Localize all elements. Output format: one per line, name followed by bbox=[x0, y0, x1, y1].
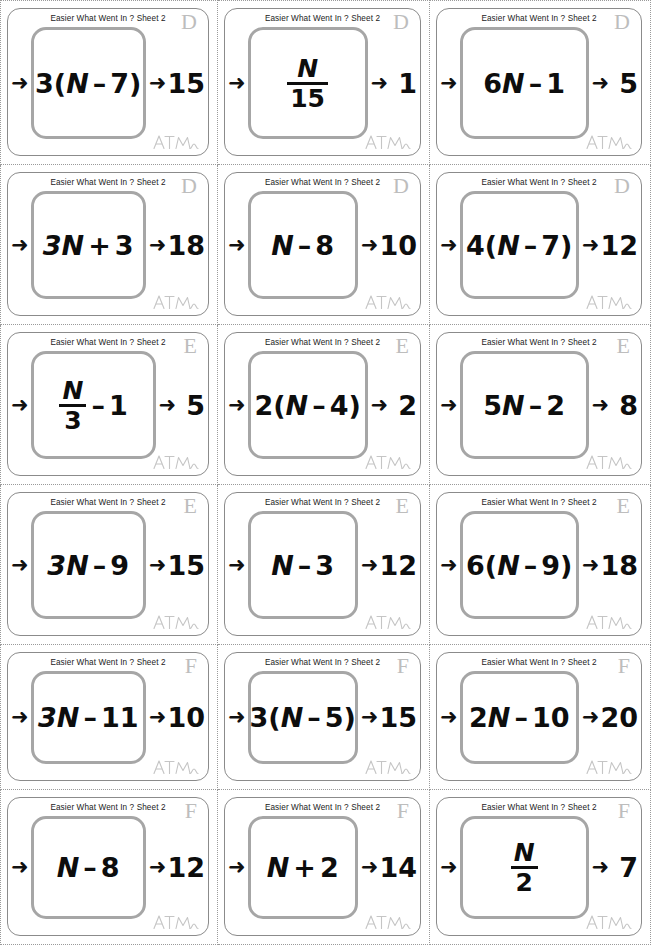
output-value: 15 bbox=[379, 702, 420, 733]
expression-variable: N bbox=[57, 702, 80, 733]
expression-term: 8 bbox=[315, 230, 334, 261]
expression-variable: N bbox=[286, 390, 309, 421]
function-machine-box[interactable]: 6(N–9) bbox=[460, 511, 579, 619]
grid-cell: Easier What Went In ? Sheet 2E➜N–3➜12 bbox=[218, 485, 430, 645]
output-value: 12 bbox=[379, 550, 420, 581]
fraction-denominator: 3 bbox=[61, 407, 84, 433]
output-arrow-icon: ➜ bbox=[149, 555, 167, 576]
atm-logo bbox=[586, 758, 632, 775]
function-machine-box[interactable]: N+2 bbox=[248, 816, 358, 919]
atm-logo bbox=[153, 913, 199, 930]
function-machine-card[interactable]: Easier What Went In ? Sheet 2D➜3N+3➜18 bbox=[7, 172, 209, 316]
grid-cell: Easier What Went In ? Sheet 2E➜2(N–4)➜2 bbox=[218, 325, 430, 485]
input-arrow-icon: ➜ bbox=[440, 73, 458, 94]
function-machine-box[interactable]: 3N+3 bbox=[31, 191, 146, 299]
output-value: 14 bbox=[379, 852, 420, 883]
expression-operator: + bbox=[88, 230, 111, 261]
function-expression: 3N–9 bbox=[47, 550, 129, 581]
expression-term: 11 bbox=[101, 702, 139, 733]
output-arrow-icon: ➜ bbox=[582, 707, 600, 728]
function-machine-box[interactable]: 5N–2 bbox=[460, 351, 589, 459]
grid-cell: Easier What Went In ? Sheet 2F➜2N–10➜20 bbox=[430, 645, 651, 790]
expression-operator: – bbox=[524, 550, 538, 581]
function-expression: N+2 bbox=[267, 852, 339, 883]
function-machine-card[interactable]: Easier What Went In ? Sheet 2F➜2N–10➜20 bbox=[436, 652, 642, 781]
expression-term: 4) bbox=[330, 390, 361, 421]
function-expression: 3(N–7) bbox=[35, 68, 141, 99]
output-value: 5 bbox=[615, 68, 641, 99]
card-header-title: Easier What Went In ? Sheet 2 bbox=[437, 498, 641, 507]
atm-logo bbox=[365, 133, 411, 150]
function-machine-card[interactable]: Easier What Went In ? Sheet 2F➜N+2➜14 bbox=[224, 797, 421, 936]
input-arrow-icon: ➜ bbox=[440, 707, 458, 728]
function-machine-box[interactable]: N2 bbox=[460, 816, 589, 919]
function-machine-box[interactable]: N–8 bbox=[248, 191, 358, 299]
input-arrow-icon: ➜ bbox=[228, 73, 246, 94]
function-machine-box[interactable]: 2N–10 bbox=[460, 671, 579, 764]
function-machine-card[interactable]: Easier What Went In ? Sheet 2E➜6(N–9)➜18 bbox=[436, 492, 642, 636]
expression-variable: N bbox=[267, 852, 290, 883]
function-machine-card[interactable]: Easier What Went In ? Sheet 2D➜4(N–7)➜12 bbox=[436, 172, 642, 316]
expression-operator: – bbox=[298, 230, 312, 261]
atm-logo bbox=[586, 913, 632, 930]
input-arrow-icon: ➜ bbox=[228, 857, 246, 878]
function-machine-box[interactable]: N15 bbox=[248, 27, 368, 139]
function-machine-card[interactable]: Easier What Went In ? Sheet 2D➜6N–1➜5 bbox=[436, 8, 642, 156]
input-arrow-icon: ➜ bbox=[440, 235, 458, 256]
input-arrow-icon: ➜ bbox=[228, 235, 246, 256]
function-machine-card[interactable]: Easier What Went In ? Sheet 2E➜3N–9➜15 bbox=[7, 492, 209, 636]
function-machine-card[interactable]: Easier What Went In ? Sheet 2F➜N2➜7 bbox=[436, 797, 642, 936]
fraction-denominator: 2 bbox=[512, 869, 535, 895]
function-machine-card[interactable]: Easier What Went In ? Sheet 2F➜3N–11➜10 bbox=[7, 652, 209, 781]
machine-row: ➜3N+3➜18 bbox=[8, 189, 208, 301]
expression-term: 9) bbox=[541, 550, 572, 581]
function-machine-card[interactable]: Easier What Went In ? Sheet 2F➜N–8➜12 bbox=[7, 797, 209, 936]
card-header-title: Easier What Went In ? Sheet 2 bbox=[8, 803, 208, 812]
expression-term: 1 bbox=[546, 68, 565, 99]
input-arrow-icon: ➜ bbox=[228, 555, 246, 576]
function-machine-box[interactable]: 2(N–4) bbox=[248, 351, 368, 459]
input-arrow-icon: ➜ bbox=[11, 555, 29, 576]
function-machine-box[interactable]: N–3 bbox=[248, 511, 358, 619]
function-machine-card[interactable]: Easier What Went In ? Sheet 2D➜3(N–7)➜15 bbox=[7, 8, 209, 156]
function-machine-box[interactable]: N3–1 bbox=[31, 351, 156, 459]
fraction: N2 bbox=[511, 840, 538, 895]
expression-term: 3 bbox=[115, 230, 134, 261]
output-arrow-icon: ➜ bbox=[582, 555, 600, 576]
card-header-title: Easier What Went In ? Sheet 2 bbox=[225, 14, 420, 23]
function-machine-box[interactable]: 4(N–7) bbox=[460, 191, 579, 299]
function-machine-box[interactable]: 3N–11 bbox=[31, 671, 146, 764]
function-machine-box[interactable]: 3(N–7) bbox=[31, 27, 146, 139]
function-machine-box[interactable]: 3(N–5) bbox=[248, 671, 358, 764]
function-machine-box[interactable]: N–8 bbox=[31, 816, 146, 919]
function-machine-card[interactable]: Easier What Went In ? Sheet 2E➜5N–2➜8 bbox=[436, 332, 642, 476]
expression-term: 8 bbox=[101, 852, 120, 883]
function-machine-card[interactable]: Easier What Went In ? Sheet 2E➜N3–1➜5 bbox=[7, 332, 209, 476]
machine-row: ➜2(N–4)➜2 bbox=[225, 349, 420, 461]
function-machine-box[interactable]: 6N–1 bbox=[460, 27, 589, 139]
card-header-title: Easier What Went In ? Sheet 2 bbox=[8, 338, 208, 347]
function-machine-card[interactable]: Easier What Went In ? Sheet 2E➜2(N–4)➜2 bbox=[224, 332, 421, 476]
atm-logo bbox=[586, 293, 632, 310]
expression-operator: – bbox=[93, 68, 107, 99]
card-header-title: Easier What Went In ? Sheet 2 bbox=[225, 178, 420, 187]
function-machine-card[interactable]: Easier What Went In ? Sheet 2E➜N–3➜12 bbox=[224, 492, 421, 636]
output-value: 8 bbox=[615, 390, 641, 421]
function-expression: 3N–11 bbox=[38, 702, 138, 733]
input-arrow-icon: ➜ bbox=[11, 73, 29, 94]
machine-row: ➜5N–2➜8 bbox=[437, 349, 641, 461]
output-arrow-icon: ➜ bbox=[361, 857, 379, 878]
grid-cell: Easier What Went In ? Sheet 2F➜N–8➜12 bbox=[0, 790, 218, 945]
output-arrow-icon: ➜ bbox=[592, 395, 610, 416]
function-machine-card[interactable]: Easier What Went In ? Sheet 2D➜N15➜1 bbox=[224, 8, 421, 156]
output-arrow-icon: ➜ bbox=[149, 857, 167, 878]
function-machine-card[interactable]: Easier What Went In ? Sheet 2F➜3(N–5)➜15 bbox=[224, 652, 421, 781]
function-machine-box[interactable]: 3N–9 bbox=[31, 511, 146, 619]
expression-term: 3( bbox=[35, 68, 66, 99]
machine-row: ➜2N–10➜20 bbox=[437, 669, 641, 766]
expression-term: 7) bbox=[541, 230, 572, 261]
function-machine-card[interactable]: Easier What Went In ? Sheet 2D➜N–8➜10 bbox=[224, 172, 421, 316]
expression-term: 2 bbox=[546, 390, 565, 421]
machine-row: ➜3N–9➜15 bbox=[8, 509, 208, 621]
expression-operator: – bbox=[529, 390, 543, 421]
